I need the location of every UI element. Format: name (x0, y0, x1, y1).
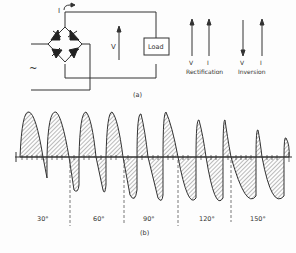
current-arrow-head (71, 3, 75, 7)
rectification-i-label: I (207, 59, 209, 66)
ac-source-symbol: ~ (29, 63, 37, 74)
thyristor-2 (68, 30, 79, 40)
waveform-plot: 30° 60° 90° 120° 150° (b) (15, 112, 292, 237)
mode-rectification (190, 19, 211, 56)
rectification-v-label: V (189, 59, 194, 66)
voltage-label: V (111, 43, 116, 51)
dc-negative-wire (65, 64, 156, 78)
thyristor-3 (52, 48, 62, 58)
part-b-caption: (b) (140, 229, 149, 237)
firing-angle-90: 90° (143, 215, 155, 223)
voltage-waveform (20, 112, 289, 201)
bridge-outline (48, 27, 82, 62)
inversion-label: Inversion (238, 68, 266, 75)
load-label: Load (148, 43, 164, 51)
firing-angle-60: 60° (93, 215, 105, 223)
voltage-arrow-head (117, 26, 121, 32)
part-a-caption: (a) (133, 91, 142, 99)
firing-angle-30: 30° (37, 215, 49, 223)
mode-inversion (241, 19, 264, 56)
thyristor-1 (51, 30, 61, 40)
rectification-label: Rectification (186, 68, 223, 75)
inversion-i-label: I (260, 59, 262, 66)
inversion-v-label: V (240, 59, 245, 66)
firing-angle-120: 120° (199, 215, 215, 223)
current-label: I (58, 7, 60, 15)
thyristor-converter-figure: I V Load ~ (a) V I Rectification V I Inv… (0, 0, 296, 253)
thyristors (51, 30, 79, 58)
firing-angle-150: 150° (250, 215, 266, 223)
